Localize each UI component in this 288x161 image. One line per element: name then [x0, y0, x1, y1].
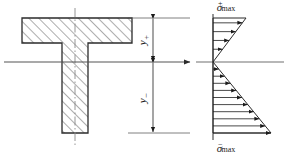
dimension-label-y-plus: y+: [136, 35, 151, 46]
sigma-max-tension-label-subscript: max: [221, 4, 235, 13]
dimension-sign-y-plus: +: [141, 35, 151, 40]
dimension-label-y-minus: y−: [136, 93, 151, 104]
sigma-max-tension-label: σ+max: [217, 0, 236, 13]
engineering-figure: y+y−σ+maxσ−max: [0, 0, 288, 161]
dimension-sign-y-minus: −: [141, 93, 151, 98]
dimension-label-text-y-minus: y−: [136, 93, 151, 104]
stress-diagram-group: [196, 14, 284, 140]
extension-lines-group: [128, 18, 190, 133]
t-beam-cross-section: [22, 8, 132, 145]
tension-stress-triangle: [213, 18, 246, 62]
sigma-max-compression-label-subscript: max: [221, 145, 235, 154]
sigma-max-compression-label: σ−max: [217, 140, 236, 154]
dimension-label-text-y-plus: y+: [136, 35, 151, 46]
diagonal-section-hatch: [22, 18, 132, 133]
figure-canvas: y+y−σ+maxσ−max: [0, 0, 288, 161]
